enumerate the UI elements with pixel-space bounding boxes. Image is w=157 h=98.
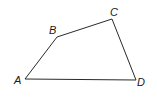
vertex-label-b: B (49, 24, 56, 36)
quadrilateral-ABCD (25, 19, 136, 80)
vertex-label-d: D (137, 76, 145, 88)
quadrilateral-diagram: A B C D (0, 0, 157, 98)
vertex-label-a: A (13, 74, 21, 86)
vertex-label-c: C (110, 6, 118, 18)
